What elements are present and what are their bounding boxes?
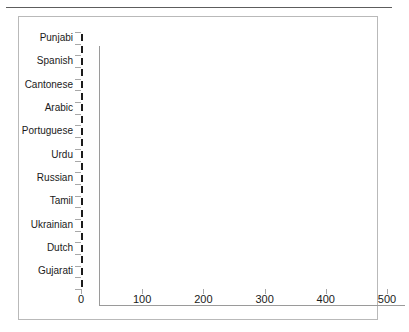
y-axis-tick [75, 125, 81, 126]
bar [81, 34, 83, 41]
bar-row [81, 58, 358, 65]
y-axis-tick [75, 277, 81, 278]
y-axis-tick-label: Russian [1, 173, 73, 183]
y-axis-tick [75, 137, 81, 138]
x-axis-line [99, 305, 405, 306]
bar [81, 186, 83, 193]
bar-row [81, 186, 162, 193]
bar [81, 139, 83, 146]
y-axis-tick-label: Tamil [1, 196, 73, 206]
bar [81, 128, 83, 135]
bar-row [81, 81, 350, 88]
y-axis-tick-label: Spanish [1, 56, 73, 66]
y-axis-tick [75, 44, 81, 45]
y-axis-tick [75, 242, 81, 243]
bar [81, 116, 83, 123]
bar-row [81, 151, 221, 158]
y-axis-tick [75, 79, 81, 80]
y-axis-tick-label: Urdu [1, 150, 73, 160]
bar-row [81, 198, 156, 205]
bar-row [81, 221, 153, 228]
y-axis-tick [75, 149, 81, 150]
y-axis-tick-label: Portuguese [1, 126, 73, 136]
y-axis-tick-label: Ukrainian [1, 220, 73, 230]
bar [81, 233, 83, 240]
bar-row [81, 175, 172, 182]
bar-row [81, 69, 359, 76]
bar [81, 151, 83, 158]
y-axis-tick-label: Punjabi [1, 33, 73, 43]
y-axis-tick [75, 90, 81, 91]
y-axis-tick [75, 161, 81, 162]
x-axis-tick-label: 0 [51, 293, 111, 305]
y-axis-tick [75, 254, 81, 255]
y-axis-tick-label: Dutch [1, 243, 73, 253]
bar [81, 210, 83, 217]
y-axis-tick [75, 266, 81, 267]
y-axis-tick-label: Cantonese [1, 80, 73, 90]
bar-row [81, 139, 224, 146]
y-axis-tick [75, 172, 81, 173]
bar-row [81, 116, 239, 123]
bar [81, 221, 83, 228]
x-axis-tick-label: 400 [296, 293, 356, 305]
y-axis-tick [75, 207, 81, 208]
bar-row [81, 163, 175, 170]
bar [81, 280, 83, 287]
bar-row [81, 245, 150, 252]
y-axis-tick [75, 32, 81, 33]
y-axis-tick-label: Gujarati [1, 266, 73, 276]
bar-row [81, 256, 147, 263]
bar-row [81, 46, 363, 53]
bar-row [81, 233, 150, 240]
bar [81, 93, 83, 100]
y-axis-tick-label: Arabic [1, 103, 73, 113]
bar [81, 81, 83, 88]
bar [81, 198, 83, 205]
top-divider-rule [6, 7, 392, 8]
x-axis-tick-label: 300 [235, 293, 295, 305]
bar-row [81, 268, 145, 275]
chart-frame: PunjabiSpanishCantoneseArabicPortugueseU… [18, 16, 378, 320]
bar [81, 69, 83, 76]
bar [81, 256, 83, 263]
bar-row [81, 210, 156, 217]
y-axis-tick [75, 55, 81, 56]
bar [81, 268, 83, 275]
y-axis-tick [75, 67, 81, 68]
y-axis-tick [75, 231, 81, 232]
y-axis-tick [75, 196, 81, 197]
bar [81, 46, 83, 53]
y-axis-tick [75, 102, 81, 103]
bar-row [81, 128, 236, 135]
x-axis-tick-label: 200 [173, 293, 233, 305]
bar-row [81, 34, 387, 41]
x-axis-tick-label: 100 [112, 293, 172, 305]
x-axis-tick-label: 500 [357, 293, 409, 305]
bar-row [81, 104, 328, 111]
y-axis-tick [75, 184, 81, 185]
bar [81, 58, 83, 65]
bar [81, 104, 83, 111]
bar [81, 175, 83, 182]
y-axis-tick [75, 114, 81, 115]
bar-row [81, 280, 144, 287]
bar-row [81, 93, 350, 100]
bar [81, 163, 83, 170]
y-axis-tick [75, 219, 81, 220]
bar [81, 245, 83, 252]
